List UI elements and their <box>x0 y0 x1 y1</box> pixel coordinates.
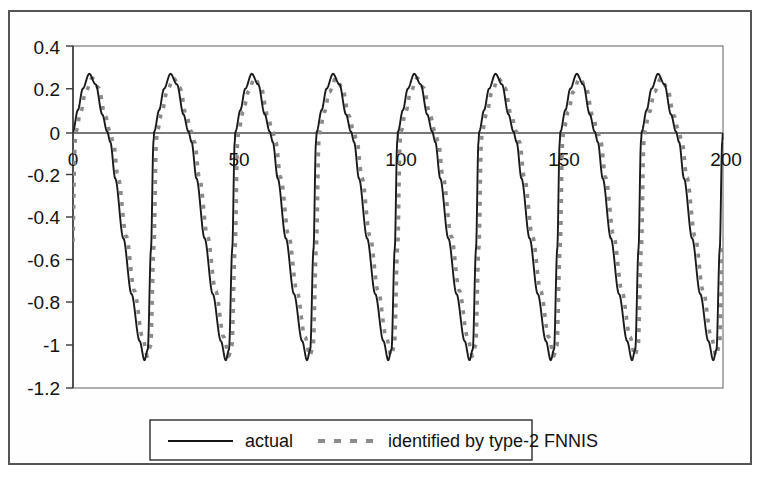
y-tick-label: 0 <box>49 123 60 144</box>
x-tick-label: 200 <box>710 149 742 170</box>
x-tick-label: 50 <box>228 149 249 170</box>
legend: actual identified by type-2 FNNIS <box>150 420 598 460</box>
y-tick-label: -0.6 <box>27 250 60 271</box>
y-tick-label: -0.2 <box>27 165 60 186</box>
figure-container: 0.4 0.2 0 -0.2 -0.4 -0.6 -0.8 -1 -1.2 0 … <box>0 0 760 477</box>
legend-actual-label: actual <box>245 431 293 451</box>
y-tick-label: 0.4 <box>34 37 61 58</box>
y-tick-label: -1 <box>43 335 60 356</box>
y-tick-label: -1.2 <box>27 378 60 399</box>
y-tick-label: -0.4 <box>27 207 60 228</box>
chart-canvas: 0.4 0.2 0 -0.2 -0.4 -0.6 -0.8 -1 -1.2 0 … <box>0 0 760 477</box>
x-tick-label: 150 <box>548 149 580 170</box>
y-tick-label: 0.2 <box>34 79 60 100</box>
y-axis-ticks <box>66 46 73 388</box>
legend-identified-label: identified by type-2 FNNIS <box>388 431 598 451</box>
y-tick-label: -0.8 <box>27 292 60 313</box>
y-axis-tick-labels: 0.4 0.2 0 -0.2 -0.4 -0.6 -0.8 -1 -1.2 <box>27 37 60 399</box>
